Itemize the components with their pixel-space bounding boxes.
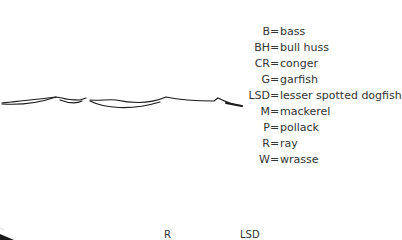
- species-legend: B = bass BH = bull huss CR = conger G = …: [236, 24, 396, 168]
- legend-code: P: [263, 120, 270, 136]
- legend-separator: =: [270, 104, 279, 120]
- legend-item-bass: B = bass: [236, 24, 396, 40]
- legend-separator: =: [270, 72, 279, 88]
- legend-code: R: [262, 136, 270, 152]
- legend-separator: =: [270, 56, 279, 72]
- legend-code: BH: [254, 40, 270, 56]
- legend-item-wrasse: W = wrasse: [236, 152, 396, 168]
- legend-name: conger: [280, 56, 318, 72]
- coastline-fragment: [0, 224, 18, 240]
- legend-item-mackerel: M = mackerel: [236, 104, 396, 120]
- legend-name: bull huss: [280, 40, 329, 56]
- legend-item-lesser-spotted-dogfish: LSD = lesser spotted dogfish: [236, 88, 396, 104]
- legend-item-ray: R = ray: [236, 136, 396, 152]
- legend-item-bull-huss: BH = bull huss: [236, 40, 396, 56]
- legend-name: ray: [280, 136, 298, 152]
- legend-separator: =: [270, 136, 279, 152]
- legend-item-pollack: P = pollack: [236, 120, 396, 136]
- legend-name: lesser spotted dogfish: [280, 88, 402, 104]
- legend-code: G: [261, 72, 270, 88]
- legend-name: garfish: [280, 72, 318, 88]
- sea-profile-lines: [0, 80, 250, 120]
- legend-separator: =: [270, 88, 279, 104]
- legend-name: bass: [280, 24, 305, 40]
- legend-code: M: [261, 104, 271, 120]
- legend-name: pollack: [280, 120, 319, 136]
- legend-code: W: [259, 152, 270, 168]
- legend-code: LSD: [248, 88, 270, 104]
- map-label-lesser-spotted-dogfish: LSD: [240, 229, 260, 240]
- legend-separator: =: [270, 152, 279, 168]
- legend-code: CR: [255, 56, 270, 72]
- legend-separator: =: [270, 120, 279, 136]
- legend-separator: =: [270, 40, 279, 56]
- legend-name: mackerel: [280, 104, 330, 120]
- legend-code: B: [262, 24, 270, 40]
- legend-name: wrasse: [280, 152, 319, 168]
- legend-item-garfish: G = garfish: [236, 72, 396, 88]
- legend-item-conger: CR = conger: [236, 56, 396, 72]
- legend-separator: =: [270, 24, 279, 40]
- map-label-ray: R: [164, 229, 171, 240]
